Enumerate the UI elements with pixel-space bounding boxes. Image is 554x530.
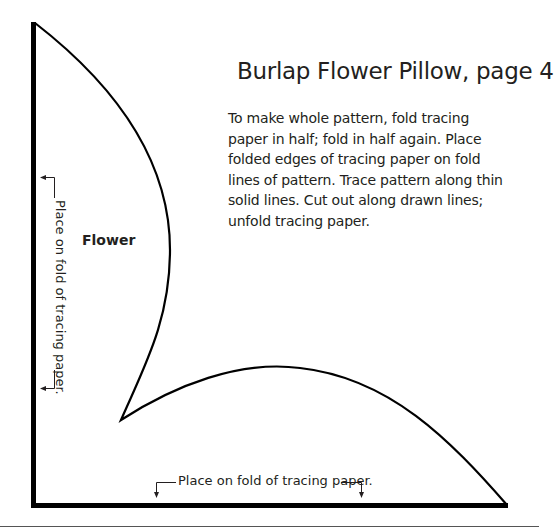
arrowhead-bottom-right [359,492,364,498]
arrowhead-left-top [40,175,46,180]
instructions-line: To make whole pattern, fold tracing [228,108,528,129]
fold-label-bottom: Place on fold of tracing paper. [178,473,373,489]
instructions-line: paper in half; fold in half again. Place [228,129,528,150]
arrowhead-left-bottom [40,386,46,391]
instructions-line: folded edges of tracing paper on fold [228,149,528,170]
instructions-paragraph: To make whole pattern, fold tracing pape… [228,108,528,232]
page-separator-line [0,526,539,527]
petal-outline [35,23,507,505]
instructions-line: lines of pattern. Trace pattern along th… [228,170,528,191]
fold-label-left: Place on fold of tracing paper. [52,200,68,372]
pattern-piece-label: Flower [82,232,135,248]
instructions-line: solid lines. Cut out along drawn lines; [228,190,528,211]
page-title: Burlap Flower Pillow, page 4 [237,58,554,84]
instructions-line: unfold tracing paper. [228,211,528,232]
arrowhead-bottom-left [154,492,159,498]
